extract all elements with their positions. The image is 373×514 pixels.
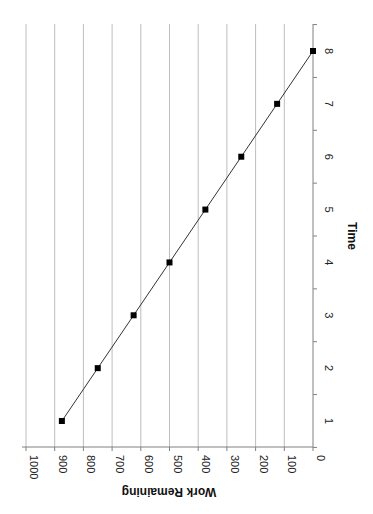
time-tick-label: 8 xyxy=(323,48,335,54)
value-tick-label: 600 xyxy=(143,455,155,473)
data-point-marker xyxy=(238,154,244,160)
data-point-marker xyxy=(131,312,137,318)
time-tick-label: 2 xyxy=(323,365,335,371)
time-tick-label: 4 xyxy=(323,259,335,265)
value-tick-label: 400 xyxy=(200,455,212,473)
value-tick-label: 500 xyxy=(172,455,184,473)
value-tick-label: 300 xyxy=(229,455,241,473)
value-tick-label: 700 xyxy=(114,455,126,473)
time-tick-label: 7 xyxy=(323,101,335,107)
burndown-chart: 01002003004005006007008009001000 1234567… xyxy=(0,0,373,514)
time-tick-label: 5 xyxy=(323,207,335,213)
value-tick-label: 1000 xyxy=(28,455,40,479)
time-axis-tick-labels: 12345678 xyxy=(323,48,335,424)
data-point-marker xyxy=(167,259,173,265)
data-point-marker xyxy=(59,418,65,424)
data-point-marker xyxy=(202,207,208,213)
time-tick-label: 6 xyxy=(323,154,335,160)
value-tick-label: 0 xyxy=(315,455,327,461)
time-tick-label: 1 xyxy=(323,418,335,424)
data-point-marker xyxy=(310,48,316,54)
value-gridlines xyxy=(26,24,313,451)
value-tick-label: 200 xyxy=(258,455,270,473)
value-tick-label: 900 xyxy=(57,455,69,473)
time-axis-title: Time xyxy=(345,222,359,250)
value-axis-tick-labels: 01002003004005006007008009001000 xyxy=(28,455,327,479)
value-tick-label: 100 xyxy=(286,455,298,473)
data-point-marker xyxy=(274,101,280,107)
time-tick-label: 3 xyxy=(323,312,335,318)
value-axis-title: Work Remaining xyxy=(122,485,216,499)
value-tick-label: 800 xyxy=(85,455,97,473)
data-point-marker xyxy=(95,365,101,371)
